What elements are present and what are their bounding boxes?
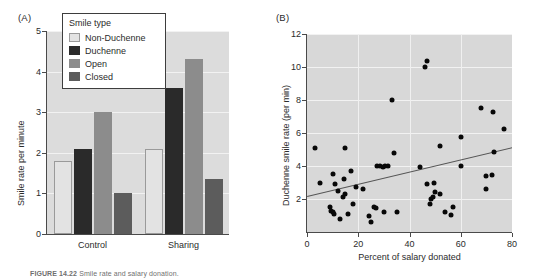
data-point xyxy=(430,195,435,200)
bar-control-closed xyxy=(114,193,132,234)
y-tick-12 xyxy=(302,34,306,35)
x-tick-20 xyxy=(358,233,359,237)
data-point xyxy=(331,211,336,216)
x-tick-label-sharing: Sharing xyxy=(168,240,199,250)
y-tick-label-0: 0 xyxy=(25,229,41,239)
gridline-x-20 xyxy=(358,34,359,232)
y-tick-2 xyxy=(42,153,46,154)
data-point xyxy=(317,180,322,185)
x-tick-label-60: 60 xyxy=(456,239,466,249)
data-point xyxy=(338,216,343,221)
data-point xyxy=(451,205,456,210)
data-point xyxy=(346,211,351,216)
data-point xyxy=(330,172,335,177)
x-tick-label-20: 20 xyxy=(353,239,363,249)
data-point xyxy=(353,185,358,190)
data-point xyxy=(448,212,453,217)
data-point xyxy=(381,210,386,215)
data-point xyxy=(425,59,430,64)
y-tick-2 xyxy=(302,199,306,200)
legend-item-closed: Closed xyxy=(69,70,160,83)
x-tick-40 xyxy=(410,233,411,237)
data-point xyxy=(490,109,495,114)
smile-type-legend: Smile type Non-DuchenneDuchenneOpenClose… xyxy=(62,13,166,89)
x-tick-label-control: Control xyxy=(78,240,107,250)
y-tick-8 xyxy=(302,100,306,101)
panel-a-tag: (A) xyxy=(18,12,31,23)
data-point xyxy=(484,187,489,192)
bar-control-non-duchenne xyxy=(54,161,72,234)
data-point xyxy=(374,206,379,211)
y-tick-4 xyxy=(302,166,306,167)
figure-container: (A) Smile rate per minute 012345 Control… xyxy=(0,0,534,280)
legend-item-non-duchenne: Non-Duchenne xyxy=(69,31,160,44)
data-point xyxy=(312,145,317,150)
x-tick-80 xyxy=(512,233,513,237)
caption-text: Smile rate and salary donation. xyxy=(79,270,179,277)
y-tick-label-12: 12 xyxy=(283,29,301,39)
y-tick-3 xyxy=(42,112,46,113)
swatch-non-duchenne-icon xyxy=(69,33,80,42)
y-tick-5 xyxy=(42,31,46,32)
y-tick-1 xyxy=(42,193,46,194)
data-point xyxy=(431,180,436,185)
panel-b-x-axis-title: Percent of salary donated xyxy=(358,252,461,262)
data-point xyxy=(425,182,430,187)
panel-b-scatter-chart: (B) Duchenne smile rate (per min) 246810… xyxy=(267,0,534,280)
y-tick-label-4: 4 xyxy=(283,161,301,171)
swatch-duchenne-icon xyxy=(69,46,80,55)
legend-title: Smile type xyxy=(69,18,160,28)
y-axis-line xyxy=(46,31,47,234)
data-point xyxy=(343,192,348,197)
data-point xyxy=(438,192,443,197)
bar-sharing-closed xyxy=(205,179,223,234)
legend-item-duchenne: Duchenne xyxy=(69,44,160,57)
data-point xyxy=(366,213,371,218)
panel-b-tag: (B) xyxy=(276,12,289,23)
gridline-x-60 xyxy=(461,34,462,232)
x-axis-line xyxy=(46,234,229,235)
legend-item-label: Non-Duchenne xyxy=(85,33,146,43)
bar-sharing-non-duchenne xyxy=(145,149,163,234)
data-point xyxy=(351,201,356,206)
data-point xyxy=(333,182,338,187)
data-point xyxy=(361,187,366,192)
data-point xyxy=(343,145,348,150)
bar-control-duchenne xyxy=(74,149,92,234)
legend-item-label: Duchenne xyxy=(85,46,126,56)
x-tick-label-80: 80 xyxy=(507,239,517,249)
y-tick-6 xyxy=(302,133,306,134)
bar-sharing-open xyxy=(185,59,203,234)
legend-item-open: Open xyxy=(69,57,160,70)
x-tick-60 xyxy=(461,233,462,237)
caption-label: FIGURE 14.22 xyxy=(30,270,77,277)
bar-sharing-duchenne xyxy=(165,88,183,234)
bar-control-open xyxy=(94,112,112,234)
y-tick-label-8: 8 xyxy=(283,95,301,105)
data-point xyxy=(458,135,463,140)
x-tick-label-0: 0 xyxy=(304,239,309,249)
gridline-x-40 xyxy=(410,34,411,232)
data-point xyxy=(489,173,494,178)
y-tick-label-3: 3 xyxy=(25,107,41,117)
swatch-open-icon xyxy=(69,59,80,68)
data-point xyxy=(492,149,497,154)
data-point xyxy=(502,126,507,131)
y-tick-4 xyxy=(42,72,46,73)
data-point xyxy=(348,168,353,173)
data-point xyxy=(417,164,422,169)
y-tick-10 xyxy=(302,67,306,68)
panel-a-bar-chart: (A) Smile rate per minute 012345 Control… xyxy=(0,0,267,280)
data-point xyxy=(428,201,433,206)
y-tick-label-10: 10 xyxy=(283,62,301,72)
data-point xyxy=(389,98,394,103)
y-tick-label-2: 2 xyxy=(283,194,301,204)
data-point xyxy=(394,210,399,215)
y-tick-label-1: 1 xyxy=(25,188,41,198)
data-point xyxy=(479,106,484,111)
legend-item-label: Open xyxy=(85,59,107,69)
panel-b-plot-area xyxy=(307,34,512,232)
y-tick-label-5: 5 xyxy=(25,26,41,36)
data-point xyxy=(335,188,340,193)
x-tick-0 xyxy=(307,233,308,237)
